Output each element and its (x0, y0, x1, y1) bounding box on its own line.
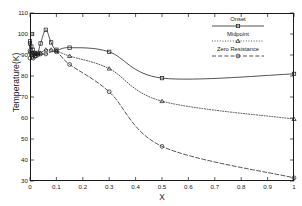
legend-entry-zero-resistance: Zero Resistance (186, 46, 290, 61)
x-tick-label: 0.1 (43, 184, 69, 190)
legend-entry-midpoint: Midpoint (186, 31, 290, 46)
x-tick-label: 0 (17, 184, 43, 190)
legend-sample (186, 37, 290, 45)
legend-sample (186, 52, 290, 60)
x-tick-label: 0.5 (149, 184, 175, 190)
y-tick-label: 110 (4, 10, 28, 16)
x-tick-label: 0.3 (96, 184, 122, 190)
chart-figure: 30405060708090100110 Temperature(K) 00.1… (0, 0, 302, 206)
y-tick-label: 40 (4, 157, 28, 163)
legend-sample (186, 22, 290, 30)
x-tick-label: 0.8 (228, 184, 254, 190)
legend-entry-onset: Onset (186, 16, 290, 31)
y-axis-title: Temperature(K) (12, 31, 21, 135)
x-tick-label: 0.2 (70, 184, 96, 190)
y-tick-label: 50 (4, 136, 28, 142)
x-tick-label: 0.6 (175, 184, 201, 190)
chart-legend: OnsetMidpointZero Resistance (186, 16, 290, 61)
x-tick-label: 0.4 (123, 184, 149, 190)
x-tick-label: 0.9 (255, 184, 281, 190)
x-axis-title: X (30, 194, 294, 202)
x-tick-label: 0.7 (202, 184, 228, 190)
x-tick-label: 1 (281, 184, 302, 190)
